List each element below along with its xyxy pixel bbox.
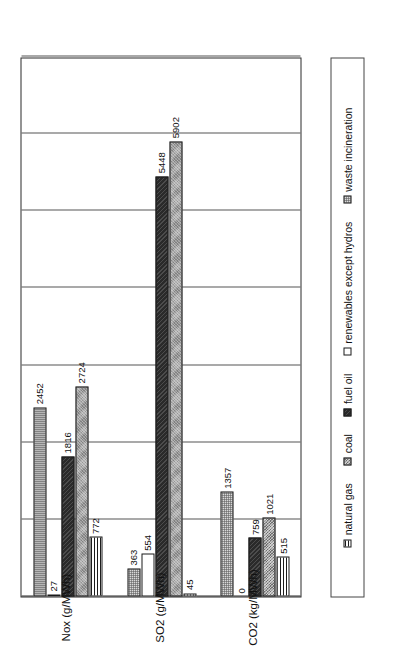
legend-label: natural gas bbox=[342, 483, 353, 535]
bar-value-label: 759 bbox=[250, 519, 260, 538]
bar-row: 772 bbox=[89, 56, 102, 596]
bar-coal[interactable] bbox=[75, 386, 88, 596]
bar-value-label: 554 bbox=[142, 534, 152, 553]
legend-swatch-icon bbox=[343, 408, 351, 416]
bar-row: 45 bbox=[183, 56, 196, 596]
bar-value-label: 1021 bbox=[264, 493, 274, 517]
bar-natural-gas[interactable] bbox=[276, 556, 289, 596]
bar-natural-gas[interactable] bbox=[183, 593, 196, 596]
legend-swatch-icon bbox=[343, 347, 351, 355]
bar-value-label: 1816 bbox=[63, 432, 73, 456]
bar-row: 554 bbox=[141, 56, 154, 596]
legend-item-waste-incineration[interactable]: waste incineration bbox=[342, 107, 353, 203]
bar-coal[interactable] bbox=[262, 517, 275, 596]
legend-label: renewables except hydros bbox=[342, 221, 353, 343]
bar-value-label: 772 bbox=[91, 518, 101, 537]
legend-label: waste incineration bbox=[342, 107, 353, 191]
bar-row: 27 bbox=[47, 56, 60, 596]
bar-row: 363 bbox=[127, 56, 140, 596]
plot-area: 5151021759013574559025448554363772272418… bbox=[20, 57, 301, 597]
legend-item-fuel-oil[interactable]: fuel oil bbox=[342, 373, 353, 415]
bar-natural-gas[interactable] bbox=[89, 536, 102, 596]
chart-legend: natural gascoalfuel oilrenewables except… bbox=[330, 57, 364, 597]
bar-value-label: 1357 bbox=[222, 467, 232, 491]
legend-swatch-icon bbox=[343, 539, 351, 547]
bar-fuel-oil[interactable] bbox=[155, 176, 168, 596]
legend-swatch-icon bbox=[343, 457, 351, 465]
category-label-so2: SO2 (g/MWh) bbox=[153, 547, 165, 650]
bar-row: 2724 bbox=[75, 56, 88, 596]
category-label-co2: CO2 (kg/MWh) bbox=[246, 547, 258, 650]
bar-waste-incineration[interactable] bbox=[220, 491, 233, 596]
bar-row: 1816 bbox=[61, 56, 74, 596]
bar-value-label: 515 bbox=[278, 537, 288, 556]
bar-row: 2452 bbox=[33, 56, 46, 596]
bar-row: 5448 bbox=[155, 56, 168, 596]
bar-row: 515 bbox=[276, 56, 289, 596]
bar-row: 759 bbox=[248, 56, 261, 596]
legend-item-renewables-except-hydros[interactable]: renewables except hydros bbox=[342, 221, 353, 355]
bar-value-label: 363 bbox=[128, 549, 138, 568]
bar-value-label: 2452 bbox=[35, 383, 45, 407]
legend-item-coal[interactable]: coal bbox=[342, 434, 353, 465]
legend-label: coal bbox=[342, 434, 353, 453]
category-label-nox: Nox (g/MWh) bbox=[59, 547, 71, 650]
bar-value-label: 45 bbox=[184, 579, 194, 593]
bar-row: 5902 bbox=[169, 56, 182, 596]
bar-row: 1357 bbox=[220, 56, 233, 596]
bar-value-label: 27 bbox=[49, 580, 59, 594]
bar-renewables-except-hydros[interactable] bbox=[141, 553, 154, 596]
bar-row: 0 bbox=[234, 56, 247, 596]
bar-value-label: 2724 bbox=[77, 362, 87, 386]
legend-item-natural-gas[interactable]: natural gas bbox=[342, 483, 353, 547]
bar-waste-incineration[interactable] bbox=[127, 568, 140, 596]
bar-coal[interactable] bbox=[169, 141, 182, 596]
bar-value-label: 0 bbox=[236, 588, 246, 596]
legend-label: fuel oil bbox=[342, 373, 353, 403]
bar-value-label: 5448 bbox=[156, 152, 166, 176]
bar-waste-incineration[interactable] bbox=[33, 407, 46, 596]
bar-value-label: 5902 bbox=[170, 117, 180, 141]
bar-row: 1021 bbox=[262, 56, 275, 596]
legend-swatch-icon bbox=[343, 195, 351, 203]
